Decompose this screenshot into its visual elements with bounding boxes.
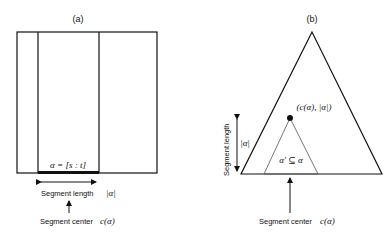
segment-definition-label: α = [s : t] [50, 160, 86, 170]
segment-length-axis-label: Segment length [222, 123, 231, 176]
segment-center-label: Segment center [40, 217, 93, 226]
panel-b-label: (b) [307, 14, 318, 24]
segment-length-label: Segment length [41, 189, 94, 198]
subset-label: α′ ⊆ α [279, 155, 303, 165]
segment-point [287, 115, 293, 121]
diagram-canvas: (a) α = [s : t] Segment length |α| Segme… [0, 0, 392, 240]
inner-triangle [264, 118, 318, 174]
segment-center-symbol-b: c(α) [320, 216, 335, 226]
segment-length-symbol-b: |α| [240, 138, 250, 148]
segment-center-label-b: Segment center [259, 217, 312, 226]
segment-center-symbol: c(α) [100, 216, 115, 226]
segment-length-symbol: |α| [106, 188, 116, 198]
segment-point-label: (c(α), |α|) [297, 102, 332, 112]
panel-a: (a) α = [s : t] Segment length |α| Segme… [17, 14, 157, 226]
panel-a-label: (a) [73, 14, 84, 24]
panel-b: (b) (c(α), |α|) α′ ⊆ α |α| Segment lengt… [222, 14, 382, 226]
